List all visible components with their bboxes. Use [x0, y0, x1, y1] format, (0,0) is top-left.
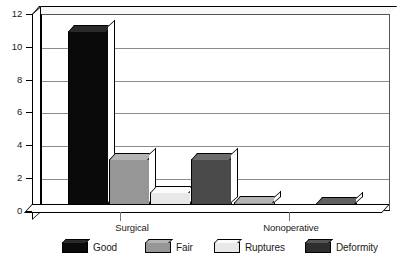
legend-item-ruptures: Ruptures — [214, 240, 285, 255]
legend-label-ruptures: Ruptures — [245, 242, 285, 253]
bar-side — [356, 191, 363, 203]
ytick-mark-0 — [26, 211, 32, 212]
legend-swatch-fair — [145, 242, 171, 253]
ytick-label-2: 2 — [0, 173, 22, 183]
legend-label-good: Good — [93, 242, 117, 253]
xaxis-label-surgical: Surgical — [115, 222, 149, 233]
xaxis-label-nonoperative: Nonoperative — [263, 222, 318, 233]
xtick-nonoperative — [289, 212, 290, 221]
legend-swatch-ruptures — [214, 242, 240, 253]
legend-swatch-good — [62, 242, 88, 253]
legend-swatch-cap — [145, 239, 173, 243]
ytick-mark-4 — [26, 145, 32, 146]
legend-item-deformity: Deformity — [305, 240, 378, 255]
bar-chart: 12 10 8 6 4 2 0 Surgical Nonoperative Go… — [0, 0, 405, 273]
legend-label-fair: Fair — [176, 242, 193, 253]
ytick-label-10: 10 — [0, 42, 22, 52]
ytick-mark-2 — [26, 178, 32, 179]
bar-side — [274, 191, 281, 203]
xtick-surgical — [120, 212, 121, 221]
legend-label-deformity: Deformity — [336, 242, 378, 253]
bar-side — [231, 148, 238, 203]
plot-frame: 12 10 8 6 4 2 0 — [0, 0, 405, 232]
bar-cap — [150, 186, 195, 193]
chart-legend: Good Fair Ruptures Deformity — [0, 240, 405, 260]
legend-item-fair: Fair — [145, 240, 193, 255]
ytick-mark-8 — [26, 80, 32, 81]
plot-depth-left-face — [32, 6, 41, 220]
legend-swatch-cap — [214, 239, 242, 243]
ytick-label-12: 12 — [0, 9, 22, 19]
legend-swatch-deformity — [305, 242, 331, 253]
bar-cap — [191, 153, 236, 160]
bar-surgical-deformity — [191, 159, 232, 210]
ytick-label-8: 8 — [0, 75, 22, 85]
bar-cap — [234, 196, 279, 203]
ytick-mark-6 — [26, 112, 32, 113]
ytick-mark-10 — [26, 47, 32, 48]
bar-cap — [316, 197, 361, 204]
bar-surgical-fair — [109, 159, 150, 210]
ytick-label-6: 6 — [0, 108, 22, 118]
plot-floor — [24, 204, 390, 213]
bar-surgical-good — [68, 31, 109, 210]
legend-swatch-cap — [305, 239, 333, 243]
legend-swatch-cap — [62, 239, 90, 243]
ytick-label-0: 0 — [0, 206, 22, 216]
plot-area — [41, 14, 390, 211]
ytick-mark-12 — [26, 14, 32, 15]
plot-depth-top-face — [32, 6, 397, 14]
bar-cap — [109, 153, 154, 160]
bar-cap — [68, 25, 113, 32]
ytick-label-4: 4 — [0, 140, 22, 150]
legend-item-good: Good — [62, 240, 117, 255]
